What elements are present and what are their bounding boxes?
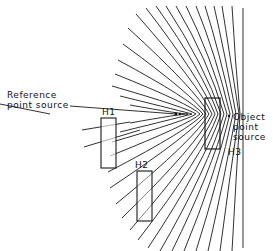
reference-label-line2: point source: [7, 100, 69, 110]
h3-label: H3: [228, 147, 242, 157]
h2-label: H2: [135, 160, 149, 170]
object-label-line2: point: [233, 122, 258, 132]
object-point-source: [228, 115, 230, 117]
interference-fringes: [0, 6, 243, 251]
reference-label-line1: Reference: [7, 90, 57, 100]
h1-label: H1: [102, 107, 116, 117]
hologram-H1: [101, 118, 116, 168]
object-label-line1: Object: [233, 112, 265, 122]
object-label-line3: source: [233, 132, 266, 142]
hologram-H2: [137, 171, 152, 221]
